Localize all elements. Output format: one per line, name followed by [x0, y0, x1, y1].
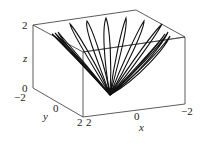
x-axis-label: x	[138, 121, 144, 133]
plot-box	[33, 10, 185, 117]
y-tick-mid: 0	[53, 102, 59, 114]
3d-plot: 2 z 0 −2 0 y 2 2 0 x −2	[0, 0, 202, 143]
x-tick-right: −2	[181, 105, 193, 117]
y-tick-right: 2	[77, 116, 83, 128]
y-axis-label: y	[42, 110, 48, 122]
x-tick-left: 2	[86, 116, 92, 128]
y-tick-left: −2	[14, 91, 26, 103]
z-tick-top: 2	[22, 19, 28, 31]
petal-curves	[52, 18, 170, 96]
z-axis-label: z	[22, 52, 28, 64]
